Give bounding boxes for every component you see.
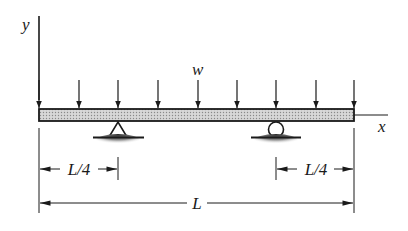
distributed-load: [39, 80, 354, 108]
left-overhang-label: L/4: [67, 160, 91, 179]
dimension-right-overhang: L/4: [277, 160, 353, 179]
load-label-w: w: [192, 60, 204, 79]
dimension-left-overhang: L/4: [40, 160, 117, 179]
pin-support-icon: [93, 122, 144, 148]
right-overhang-label: L/4: [304, 160, 328, 179]
total-length-label: L: [191, 194, 201, 213]
y-axis-label: y: [20, 15, 30, 34]
dimension-total-length: L: [40, 194, 353, 213]
y-axis: y: [20, 15, 39, 100]
roller-support-icon: [251, 122, 301, 148]
x-axis-label: x: [377, 117, 386, 136]
beam-diagram: y x w L/4: [0, 0, 408, 231]
x-axis: x: [354, 115, 388, 136]
beam: [39, 109, 354, 121]
